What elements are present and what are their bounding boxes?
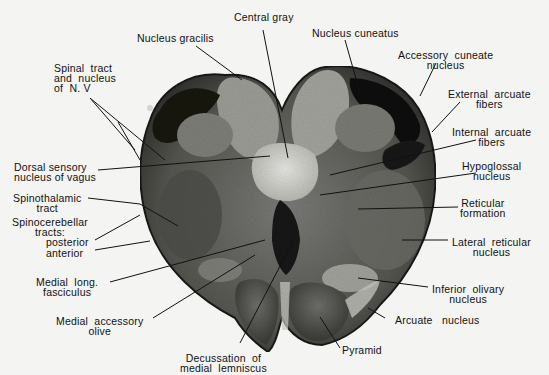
label-medial-longitudinal-fasciculus: Medial long. fasciculus (36, 277, 98, 297)
label-spinothalamic-tract: Spinothalamic tract (13, 193, 82, 213)
label-accessory-cuneate-nucleus: Accessory cuneate nucleus (398, 50, 493, 70)
label-anterior: anterior (46, 248, 83, 258)
label-hypoglossal-nucleus: Hypoglossal nucleus (462, 161, 521, 181)
label-pyramid: Pyramid (342, 345, 382, 355)
label-posterior: posterior (46, 237, 89, 247)
label-medial-accessory-olive: Medial accessory olive (56, 316, 143, 336)
label-arcuate-nucleus: Arcuate nucleus (395, 315, 480, 325)
label-inferior-olivary-nucleus: Inferior olivary nucleus (432, 284, 504, 304)
label-reticular-formation: Reticular formation (460, 198, 506, 218)
label-spinal-tract-nucleus-v: Spinal tract and nucleus of N. V (54, 63, 116, 93)
label-central-gray: Central gray (234, 12, 294, 22)
label-spinocerebellar-tracts: Spinocerebellar tracts: (12, 217, 88, 237)
label-internal-arcuate-fibers: Internal arcuate fibers (452, 127, 531, 147)
label-external-arcuate-fibers: External arcuate fibers (448, 89, 531, 109)
label-dorsal-sensory-nucleus-vagus: Dorsal sensory nucleus of vagus (14, 162, 96, 182)
label-lateral-reticular-nucleus: Lateral reticular nucleus (452, 237, 531, 257)
label-nucleus-cuneatus: Nucleus cuneatus (312, 28, 399, 38)
medulla-diagram: Central gray Nucleus gracilis Nucleus cu… (0, 0, 549, 375)
label-nucleus-gracilis: Nucleus gracilis (137, 33, 214, 43)
label-decussation-medial-lemniscus: Decussation of medial lemniscus (180, 353, 267, 373)
